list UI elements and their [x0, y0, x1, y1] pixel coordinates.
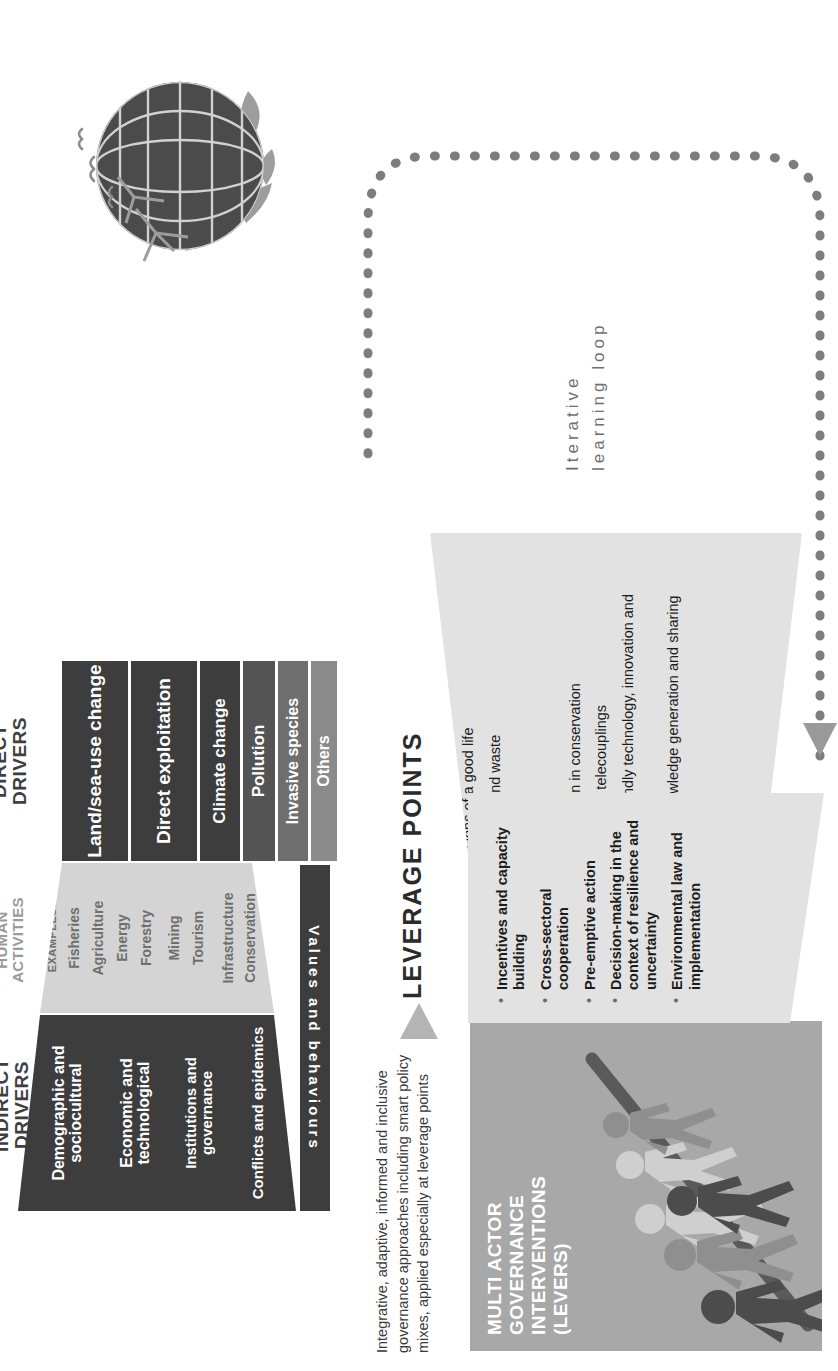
human-activities-block: EXAMPLES: Fisheries Agriculture Energy F… [18, 863, 296, 1013]
indirect-driver-cell: Demographic and sociocultural [36, 1021, 98, 1205]
multi-actor-governance-panel: MULTI ACTOR GOVERNANCE INTERVENTIONS (LE… [470, 1021, 822, 1351]
people-silhouettes-icon [558, 1021, 822, 1351]
human-activity-item: Conservation [240, 863, 262, 1013]
direct-driver-label: Others [315, 735, 332, 787]
lever-item: Decision-making in the context of resili… [608, 805, 660, 1003]
direct-driver-label-wrap: Land/sea-use change [62, 661, 128, 861]
values-and-behaviours-bar: Values and behaviours [300, 865, 330, 1211]
indirect-driver-cell: Economic and technological [104, 1021, 166, 1205]
examples-label: EXAMPLES: [47, 904, 59, 973]
diagram-canvas: INDIRECT DRIVERS Demographic and sociocu… [0, 0, 838, 1371]
lever-item: Pre-emptive action [582, 805, 599, 1003]
human-activity-item: Agriculture [88, 863, 110, 1013]
governance-title-line2: GOVERNANCE INTERVENTIONS [506, 1035, 550, 1335]
human-activity-label: Mining [167, 915, 182, 960]
leverage-points-title: LEVERAGE POINTS [398, 731, 427, 999]
indirect-drivers-block: Demographic and sociocultural Economic a… [18, 1015, 296, 1211]
direct-driver-label-wrap: Climate change [200, 661, 240, 861]
leverage-points-title-label: LEVERAGE POINTS [398, 731, 426, 999]
direct-driver-label: Climate change [211, 698, 229, 824]
lever-item: Cross-sectoral cooperation [538, 805, 573, 1003]
direct-drivers-block: Land/sea-use change Direct exploitation … [18, 661, 296, 861]
direct-driver-label: Land/sea-use change [85, 664, 106, 857]
indirect-driver-cell: Conflicts and epidemics [230, 1021, 286, 1205]
direct-driver-label-wrap: Others [311, 661, 337, 861]
human-activity-label: Forestry [139, 910, 154, 966]
direct-drivers-header-block: DIRECT DRIVERS [0, 661, 30, 861]
governance-title-line1: MULTI ACTOR [484, 1035, 506, 1335]
human-activity-item: Energy [112, 863, 134, 1013]
direct-driver-label-wrap: Pollution [243, 661, 275, 861]
human-activity-item: Mining [164, 863, 186, 1013]
drivers-panel: Demographic and sociocultural Economic a… [18, 741, 336, 1211]
human-activity-label: Conservation [243, 893, 258, 982]
human-activity-label: Energy [115, 914, 130, 961]
direct-driver-label: Direct exploitation [154, 678, 175, 844]
values-and-behaviours-label: Values and behaviours [307, 925, 324, 1151]
globe-icon [60, 51, 290, 281]
triangle-arrow-icon [398, 1001, 440, 1041]
human-activity-label: Agriculture [91, 901, 106, 976]
human-activity-item: Forestry [136, 863, 158, 1013]
direct-driver-label-wrap: Invasive species [278, 661, 308, 861]
indirect-driver-label: Conflicts and epidemics [250, 1027, 266, 1200]
indirect-driver-label: Demographic and sociocultural [50, 1021, 85, 1205]
human-activity-label: Infrastructure [221, 892, 236, 983]
caption-text: Integrative, adaptive, informed and incl… [372, 1037, 434, 1353]
human-activity-item: Fisheries [64, 863, 86, 1013]
human-activity-item: etc. [262, 863, 282, 1013]
human-activity-item: Tourism [188, 863, 210, 1013]
human-activity-label: Tourism [191, 911, 206, 965]
iterative-learning-loop-label: Iterative learning loop [560, 141, 611, 471]
indirect-driver-label: Institutions and governance [183, 1021, 215, 1205]
levers-list-panel: Incentives and capacity building Cross-s… [468, 793, 824, 1023]
direct-driver-label-wrap: Direct exploitation [131, 661, 197, 861]
direct-driver-label: Invasive species [284, 698, 301, 824]
human-activity-label: Fisheries [67, 907, 82, 968]
lever-item: Incentives and capacity building [494, 805, 529, 1003]
levers-list: Incentives and capacity building Cross-s… [468, 793, 704, 1023]
human-activities-examples-label: EXAMPLES: [44, 863, 62, 1013]
indirect-driver-label: Economic and technological [118, 1021, 153, 1205]
loop-label-line1: Iterative [560, 141, 586, 471]
direct-drivers-header-line2: DRIVERS [10, 661, 30, 861]
human-activities-header-block: HUMAN ACTIVITIES [0, 865, 26, 1015]
direct-driver-label: Pollution [250, 725, 268, 798]
human-activities-header-line2: ACTIVITIES [10, 865, 26, 1015]
loop-label-line2: learning loop [586, 141, 612, 471]
indirect-driver-cell: Institutions and governance [170, 1021, 228, 1205]
human-activity-label: etc. [265, 927, 279, 949]
human-activity-item: Infrastructure [218, 863, 240, 1013]
lever-item: Environmental law and implementation [669, 805, 704, 1003]
